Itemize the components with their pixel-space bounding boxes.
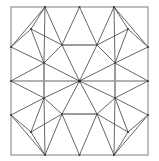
vertex-top-edge-left (44, 6, 46, 8)
vertex-inner-se (114, 97, 116, 99)
vertex-right-edge-mid (147, 80, 149, 82)
vertex-top-edge-mid (79, 6, 81, 8)
vertex-ring-n-right (96, 44, 98, 46)
tiling-diagram (0, 0, 159, 161)
vertex-center (78, 80, 81, 83)
vertex-ring-s-left (61, 113, 63, 115)
vertex-right-edge-top (147, 46, 149, 48)
vertex-ring-n-left (61, 44, 63, 46)
vertex-bottom-edge-mid (79, 154, 81, 156)
vertex-left-edge-mid (10, 80, 12, 82)
vertex-left-edge-top (10, 46, 12, 48)
vertex-right-edge-bottom (147, 114, 149, 116)
vertex-ring-s-right (96, 113, 98, 115)
vertex-corner-ne-outer (127, 28, 129, 30)
vertex-top-edge-right (113, 6, 115, 8)
vertex-left-edge-bottom (10, 114, 12, 116)
vertex-inner-nw (43, 62, 45, 64)
vertex-inner-sw (43, 97, 45, 99)
vertex-corner-se-outer (127, 131, 129, 133)
vertex-inner-ne (114, 62, 116, 64)
vertex-corner-sw-outer (30, 131, 32, 133)
vertex-bottom-edge-left (44, 154, 46, 156)
figure-root (0, 0, 159, 161)
vertex-bottom-edge-right (113, 154, 115, 156)
vertex-corner-nw-outer (30, 28, 32, 30)
